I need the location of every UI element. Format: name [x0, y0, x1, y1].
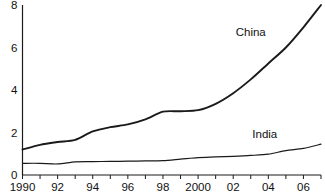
x-axis-tick-labels: 1990929496982000020406	[10, 181, 310, 193]
x-tick-label: 98	[157, 181, 170, 193]
y-tick-label: 8	[11, 0, 17, 11]
series-inline-labels: ChinaIndia	[236, 26, 278, 140]
x-tick-label: 02	[227, 181, 240, 193]
x-tick-label: 04	[262, 181, 275, 193]
data-series-group	[23, 5, 322, 164]
y-tick-label: 2	[11, 127, 17, 139]
series-label-china: China	[236, 26, 267, 38]
x-axis-tick-marks	[23, 175, 322, 179]
x-tick-label: 92	[51, 181, 64, 193]
chart-page: 02468 1990929496982000020406 ChinaIndia	[0, 0, 325, 196]
x-tick-label: 06	[297, 181, 310, 193]
x-tick-label: 94	[86, 181, 99, 193]
y-axis-tick-labels: 02468	[11, 0, 18, 181]
x-tick-label: 96	[121, 181, 134, 193]
x-tick-label: 1990	[10, 181, 36, 193]
x-tick-label: 2000	[185, 181, 211, 193]
line-chart: 02468 1990929496982000020406 ChinaIndia	[0, 0, 325, 196]
axes-group	[23, 5, 322, 175]
series-label-india: India	[252, 128, 278, 140]
y-tick-label: 6	[11, 42, 17, 54]
y-tick-label: 0	[11, 169, 17, 181]
y-tick-label: 4	[11, 84, 18, 96]
series-line-india	[23, 144, 322, 164]
